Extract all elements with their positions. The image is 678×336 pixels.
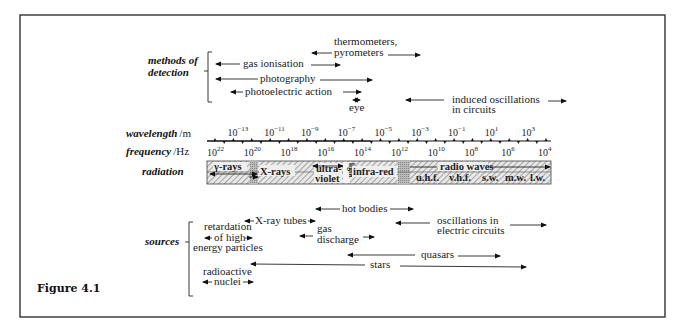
frequency-tick-label: 1022 bbox=[207, 145, 225, 158]
pyrometers-text: pyrometers bbox=[334, 46, 383, 58]
infrared-radio-overlap bbox=[398, 161, 410, 184]
source-stars: stars bbox=[251, 258, 526, 270]
frequency-tick-label: 104 bbox=[538, 145, 552, 158]
axis-tick-down bbox=[370, 141, 373, 144]
axis-tick-down bbox=[259, 141, 262, 144]
wavelength-label-text: wavelength bbox=[126, 127, 177, 139]
detection-induced-oscillations: induced oscillations in circuits bbox=[406, 93, 566, 115]
axis-tick-up bbox=[379, 138, 382, 141]
frequency-tick-label: 1010 bbox=[428, 145, 446, 158]
detection-photography: photography bbox=[216, 72, 372, 84]
axis-tick-up bbox=[269, 138, 272, 141]
axis-tick-up bbox=[324, 138, 327, 141]
axis-tick-up bbox=[305, 138, 308, 141]
eye-text: eye bbox=[349, 101, 364, 113]
wavelength-tick-label: 10−7 bbox=[338, 125, 356, 138]
axis-tick-down bbox=[535, 141, 538, 144]
band-lw: l.w. bbox=[530, 172, 546, 183]
band-mw: m.w. bbox=[505, 172, 526, 183]
axis-tick-up bbox=[361, 138, 364, 141]
induced-text-line2: in circuits bbox=[452, 103, 496, 115]
axis-tick-down bbox=[223, 141, 226, 144]
retardation-text-line3: energy particles bbox=[193, 241, 263, 253]
wavelength-unit: m bbox=[182, 127, 191, 139]
axis-tick-down bbox=[388, 141, 391, 144]
axis-tick-down bbox=[425, 141, 428, 144]
detection-label-line1: methods of bbox=[148, 54, 199, 66]
wavelength-label: wavelength/m bbox=[126, 127, 191, 139]
band-infra-red: infra-red bbox=[353, 166, 394, 177]
detection-bracket bbox=[208, 52, 212, 102]
sources-label: sources bbox=[144, 235, 179, 247]
axis-tick-up bbox=[287, 138, 290, 141]
em-spectrum-diagram: methods of detection thermometers, pyrom… bbox=[0, 0, 678, 336]
axis-tick-up bbox=[471, 138, 474, 141]
band-sw: s.w. bbox=[482, 172, 499, 183]
axis-tick-up bbox=[453, 138, 456, 141]
frequency-tick-labels: 1022102010181016101410121010108106104 bbox=[207, 145, 552, 158]
xray-tubes-text: X-ray tubes bbox=[255, 214, 307, 226]
detection-label-line2: detection bbox=[148, 66, 189, 78]
frequency-tick-label: 1012 bbox=[391, 145, 409, 158]
radiation-label: radiation bbox=[142, 165, 184, 177]
axis-tick-down bbox=[517, 141, 520, 144]
detection-eye: eye bbox=[349, 100, 364, 113]
frequency-tick-label: 1014 bbox=[354, 145, 372, 158]
axis-tick-up bbox=[526, 138, 529, 141]
axis-tick-up bbox=[545, 138, 548, 141]
frequency-tick-label: 1020 bbox=[244, 145, 262, 158]
wavelength-tick-label: 10−9 bbox=[301, 125, 319, 138]
quasars-text: quasars bbox=[421, 248, 454, 260]
wavelength-tick-label: 10−5 bbox=[375, 125, 393, 138]
band-x-rays: X-rays bbox=[260, 166, 290, 177]
stars-text: stars bbox=[370, 258, 390, 270]
source-hot-bodies: hot bodies bbox=[316, 202, 413, 214]
axis-tick-down bbox=[499, 141, 502, 144]
detection-photoelectric: photoelectric action bbox=[231, 85, 361, 97]
band-ultraviolet-line2: violet bbox=[315, 173, 340, 184]
source-radioactive-nuclei: radioactive nuclei bbox=[203, 265, 253, 287]
figure-caption: Figure 4.1 bbox=[37, 282, 100, 295]
stars-arrow-left bbox=[251, 264, 365, 265]
axis-tick-up bbox=[232, 138, 235, 141]
detection-thermometers: thermometers, pyrometers bbox=[312, 35, 420, 58]
sources-section: sources hot bodies X-ray tubes retardati… bbox=[144, 202, 546, 296]
axis-tick-up bbox=[397, 138, 400, 141]
wavelength-tick-label: 10−3 bbox=[411, 125, 429, 138]
wavelength-tick-label: 103 bbox=[522, 125, 536, 138]
frequency-unit: Hz bbox=[176, 145, 189, 157]
gas-ionisation-text: gas ionisation bbox=[243, 57, 304, 69]
frequency-tick-label: 1018 bbox=[281, 145, 299, 158]
axis-tick-up bbox=[250, 138, 253, 141]
photography-text: photography bbox=[260, 72, 316, 84]
band-vhf: v.h.f. bbox=[449, 172, 471, 183]
sources-bracket bbox=[189, 222, 193, 296]
axis-tick-down bbox=[407, 141, 410, 144]
frequency-tick-label: 106 bbox=[501, 145, 515, 158]
hot-bodies-text: hot bodies bbox=[342, 202, 388, 214]
wavelength-tick-label: 10−1 bbox=[448, 125, 466, 138]
detection-section: methods of detection thermometers, pyrom… bbox=[148, 35, 566, 115]
axes-section: wavelength/m frequency/Hz 10−1310−1110−9… bbox=[126, 125, 552, 158]
axis-tick-down bbox=[315, 141, 318, 144]
oscillations-text-line2: electric circuits bbox=[437, 224, 505, 236]
gamma-xray-overlap bbox=[250, 161, 258, 184]
detection-gas-ionisation: gas ionisation bbox=[216, 57, 340, 69]
radiation-section: radiation γ-rays X-rays ultra- violet li… bbox=[142, 161, 551, 184]
axis-tick-down bbox=[462, 141, 465, 144]
axis-tick-up bbox=[416, 138, 419, 141]
axis-tick-down bbox=[443, 141, 446, 144]
source-xray-tubes: X-ray tubes bbox=[245, 214, 315, 226]
frequency-tick-label: 1016 bbox=[317, 145, 335, 158]
axis-tick-down bbox=[333, 141, 336, 144]
wavelength-tick-label: 101 bbox=[485, 125, 499, 138]
wavelength-tick-labels: 10−1310−1110−910−710−510−310−1101103 bbox=[227, 125, 535, 138]
axis-tick-up bbox=[489, 138, 492, 141]
axis-tick-down bbox=[480, 141, 483, 144]
band-uhf: u.h.f. bbox=[416, 172, 439, 183]
wavelength-tick-label: 10−13 bbox=[227, 125, 248, 138]
axis-tick-up bbox=[342, 138, 345, 141]
axis-tick-down bbox=[296, 141, 299, 144]
source-retardation: retardation of high energy particles bbox=[193, 220, 263, 253]
axis-tick-up bbox=[214, 138, 217, 141]
